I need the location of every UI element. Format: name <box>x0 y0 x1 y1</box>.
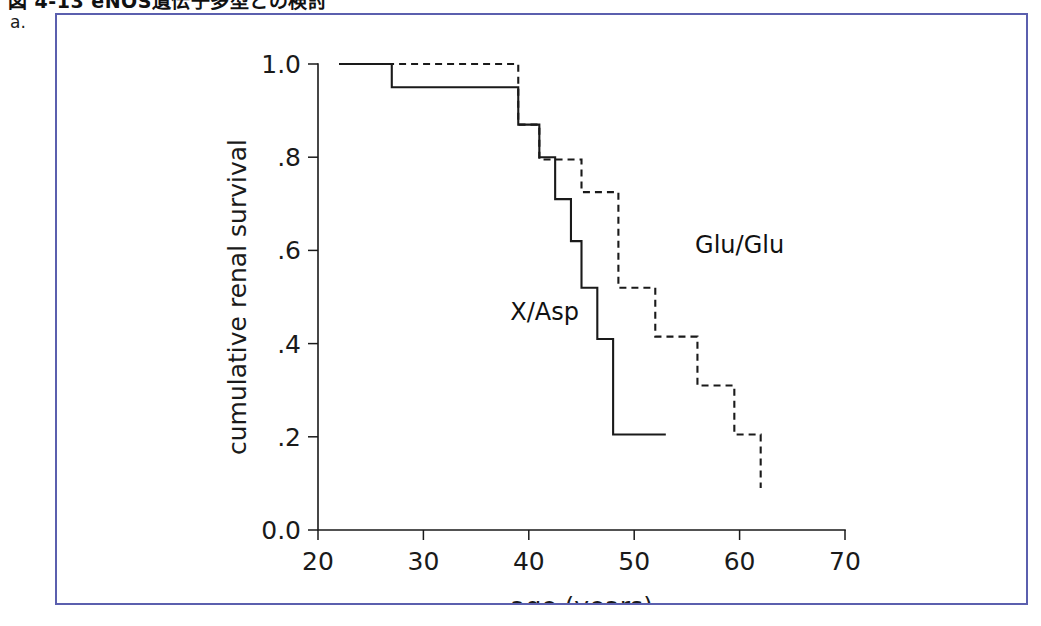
series-label-x-asp: X/Asp <box>510 298 579 326</box>
y-axis-ticks: 0.0.2.4.6.81.0 <box>261 50 318 545</box>
y-tick-label: 0.0 <box>261 516 301 545</box>
chart-axes <box>318 64 845 530</box>
x-tick-label: 70 <box>829 547 861 576</box>
chart-plot-area: 0.0.2.4.6.81.0203040506070age (years)cum… <box>223 50 861 603</box>
x-tick-label: 60 <box>724 547 756 576</box>
page-caption-strip: 図 4-13 eNOS遺伝子多型との検討 <box>0 0 1041 12</box>
page-caption: 図 4-13 eNOS遺伝子多型との検討 <box>8 0 327 12</box>
series-curve-glu-glu <box>339 64 761 488</box>
x-tick-label: 40 <box>513 547 545 576</box>
x-axis-title: age (years) <box>510 592 653 603</box>
y-tick-label: .2 <box>277 423 301 452</box>
y-tick-label: .6 <box>277 236 301 265</box>
axis-lines <box>318 64 845 530</box>
panel-letter: a. <box>10 14 26 31</box>
y-tick-label: .4 <box>277 330 301 359</box>
y-axis-title: cumulative renal survival <box>223 139 252 455</box>
x-tick-label: 30 <box>407 547 439 576</box>
x-tick-label: 20 <box>302 547 334 576</box>
figure-frame: 0.0.2.4.6.81.0203040506070age (years)cum… <box>55 13 1028 605</box>
survival-chart: 0.0.2.4.6.81.0203040506070age (years)cum… <box>57 15 1026 603</box>
y-tick-label: 1.0 <box>261 50 301 79</box>
series-curve-x-asp <box>339 64 666 434</box>
series-label-glu-glu: Glu/Glu <box>695 231 784 259</box>
y-tick-label: .8 <box>277 143 301 172</box>
x-tick-label: 50 <box>618 547 650 576</box>
x-axis-ticks: 203040506070 <box>302 530 861 576</box>
